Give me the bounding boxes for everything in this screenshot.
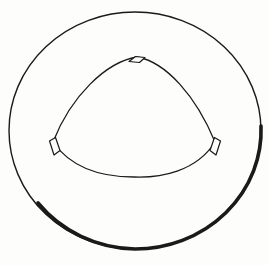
figure-canvas: [0, 0, 269, 265]
line-drawing-svg: [0, 0, 269, 265]
inner-rounded-triangle: [53, 57, 215, 177]
